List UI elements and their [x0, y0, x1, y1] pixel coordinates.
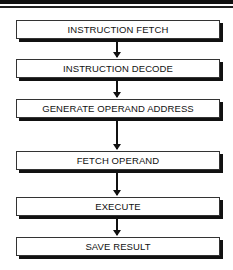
- arrow-down-icon: [116, 216, 118, 235]
- step-label: FETCH OPERAND: [77, 155, 160, 166]
- step-label: INSTRUCTION DECODE: [63, 63, 173, 74]
- arrow-down-icon: [116, 78, 118, 97]
- step-label: INSTRUCTION FETCH: [68, 24, 169, 35]
- step-execute: EXECUTE: [16, 197, 220, 216]
- header-rule-thin: [0, 6, 233, 8]
- step-save-result: SAVE RESULT: [16, 237, 220, 256]
- header-rule-thick: [0, 0, 233, 4]
- step-label: GENERATE OPERAND ADDRESS: [42, 103, 194, 114]
- step-instruction-decode: INSTRUCTION DECODE: [16, 59, 220, 78]
- arrow-down-icon: [116, 170, 118, 195]
- arrow-down-icon: [116, 39, 118, 57]
- arrow-down-icon: [116, 118, 118, 149]
- step-generate-operand-address: GENERATE OPERAND ADDRESS: [16, 99, 220, 118]
- step-instruction-fetch: INSTRUCTION FETCH: [16, 20, 220, 39]
- step-label: EXECUTE: [95, 201, 141, 212]
- step-fetch-operand: FETCH OPERAND: [16, 151, 220, 170]
- step-label: SAVE RESULT: [85, 241, 150, 252]
